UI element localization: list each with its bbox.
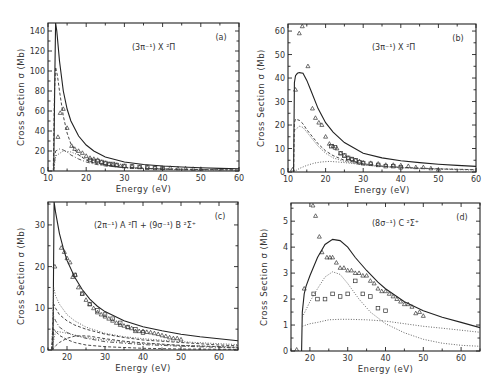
data-marker-triangle — [365, 274, 369, 278]
data-marker-triangle — [369, 161, 373, 165]
data-marker-triangle — [297, 31, 301, 35]
data-marker-triangle — [334, 261, 338, 265]
panel-label: (b) — [452, 34, 463, 43]
y-tick-label: 0 — [280, 168, 285, 177]
data-marker-square — [346, 292, 350, 296]
y-tick-label: 0 — [40, 346, 45, 355]
x-tick-label: 60 — [456, 354, 466, 363]
data-marker-square — [353, 279, 357, 283]
y-tick-label: 20 — [35, 147, 45, 156]
x-axis-label: Energy (eV) — [115, 363, 171, 373]
data-marker-triangle — [58, 111, 62, 115]
y-tick-label: 10 — [275, 145, 285, 154]
x-tick-label: 40 — [396, 175, 406, 184]
y-tick-label: 3 — [283, 269, 288, 278]
data-marker-triangle — [179, 337, 183, 341]
y-tick-label: 2 — [283, 295, 288, 304]
data-marker-triangle — [320, 250, 324, 254]
data-marker-triangle — [317, 235, 321, 239]
data-marker-triangle — [77, 149, 81, 153]
y-tick-label: 0 — [283, 347, 288, 356]
panel-label: (c) — [215, 212, 226, 221]
y-tick-label: 30 — [275, 98, 285, 107]
data-marker-triangle — [122, 324, 126, 328]
data-marker-triangle — [175, 336, 179, 340]
panel-a: 102030405060020406080100120140Energy (eV… — [16, 23, 244, 194]
data-marker-triangle — [88, 156, 92, 160]
data-marker-square — [323, 297, 327, 301]
x-tick-label: 60 — [214, 353, 224, 362]
data-marker-triangle — [421, 314, 425, 318]
x-tick-label: 30 — [100, 353, 110, 362]
x-tick-label: 40 — [158, 174, 168, 183]
data-marker-triangle — [418, 310, 422, 314]
data-marker-triangle — [429, 166, 433, 170]
panel-annotation: (3π⁻¹) X ²Π — [132, 43, 175, 52]
y-axis-label: Cross Section σ (Mb) — [259, 228, 269, 326]
data-marker-triangle — [406, 164, 410, 168]
data-marker-triangle — [353, 271, 357, 275]
data-marker-triangle — [149, 330, 153, 334]
y-tick-label: 40 — [275, 74, 285, 83]
y-tick-label: 80 — [35, 87, 45, 96]
data-marker-triangle — [156, 332, 160, 336]
x-tick-label: 20 — [62, 353, 72, 362]
x-axis-label: Energy (eV) — [116, 184, 172, 194]
data-marker-triangle — [70, 144, 74, 148]
data-marker-triangle — [160, 333, 164, 337]
data-marker-triangle — [310, 106, 314, 110]
panel-label: (a) — [215, 33, 226, 42]
y-tick-label: 50 — [275, 51, 285, 60]
data-marker-triangle — [380, 289, 384, 293]
data-marker-triangle — [311, 203, 315, 207]
data-marker-triangle — [130, 326, 134, 330]
data-marker-triangle — [313, 116, 317, 120]
x-tick-label: 20 — [305, 354, 315, 363]
x-tick-label: 40 — [138, 353, 148, 362]
y-tick-label: 140 — [30, 27, 45, 36]
x-tick-label: 50 — [433, 175, 443, 184]
data-marker-square — [361, 292, 365, 296]
data-marker-triangle — [368, 279, 372, 283]
x-tick-label: 30 — [343, 354, 353, 363]
data-marker-triangle — [96, 158, 100, 162]
y-axis-label: Cross Section σ (Mb) — [16, 227, 26, 325]
data-marker-triangle — [342, 266, 346, 270]
x-tick-label: 40 — [380, 354, 390, 363]
data-marker-square — [384, 309, 388, 313]
data-marker-square — [369, 295, 373, 299]
data-marker-triangle — [65, 126, 69, 130]
data-marker-triangle — [61, 107, 65, 111]
panel-annotation: (8σ⁻¹) C ²Σ⁺ — [372, 219, 419, 228]
data-marker-square — [331, 292, 335, 296]
y-tick-label: 120 — [30, 47, 45, 56]
data-marker-triangle — [376, 286, 380, 290]
data-marker-triangle — [306, 64, 310, 68]
y-tick-label: 60 — [275, 27, 285, 36]
y-tick-label: 60 — [35, 107, 45, 116]
data-marker-triangle — [107, 317, 111, 321]
data-marker-triangle — [346, 268, 350, 272]
data-marker-triangle — [361, 274, 365, 278]
data-marker-triangle — [168, 335, 172, 339]
data-marker-triangle — [152, 331, 156, 335]
data-marker-triangle — [114, 321, 118, 325]
y-tick-label: 5 — [283, 217, 288, 226]
series-line — [302, 319, 480, 332]
x-tick-label: 50 — [418, 354, 428, 363]
x-tick-label: 50 — [196, 174, 206, 183]
data-marker-triangle — [317, 120, 321, 124]
data-marker-triangle — [171, 336, 175, 340]
data-marker-triangle — [56, 135, 60, 139]
y-tick-label: 20 — [35, 263, 45, 272]
data-marker-triangle — [324, 135, 328, 139]
panel-c: 20304050600102030Energy (eV)Cross Sectio… — [16, 202, 238, 373]
panel-d: 2030405060012345Energy (eV)Cross Section… — [259, 203, 480, 374]
y-tick-label: 10 — [35, 304, 45, 313]
x-tick-label: 60 — [234, 174, 244, 183]
y-tick-label: 40 — [35, 127, 45, 136]
data-marker-triangle — [164, 334, 168, 338]
data-marker-triangle — [92, 157, 96, 161]
data-marker-triangle — [331, 255, 335, 259]
data-marker-triangle — [399, 163, 403, 167]
